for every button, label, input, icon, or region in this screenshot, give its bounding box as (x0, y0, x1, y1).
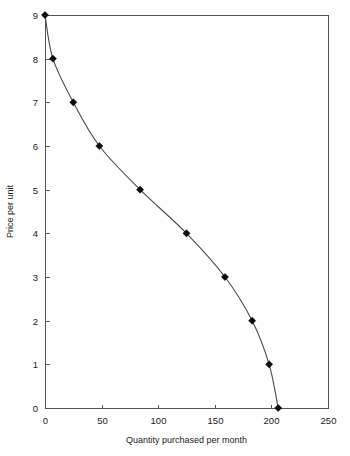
y-tick-label: 7 (33, 97, 38, 108)
y-tick-label: 3 (33, 272, 38, 283)
x-tick-label: 0 (43, 415, 48, 426)
y-tick-label: 1 (33, 359, 38, 370)
y-tick-label: 8 (33, 54, 38, 65)
y-tick-label: 5 (33, 185, 38, 196)
y-tick-label: 0 (33, 403, 38, 414)
y-tick-label: 9 (33, 10, 38, 21)
x-tick-label: 250 (321, 415, 337, 426)
chart-background (0, 0, 350, 456)
chart-figure: 050100150200250 0123456789 Quantity purc… (0, 0, 350, 456)
x-tick-label: 150 (208, 415, 224, 426)
x-tick-label: 50 (97, 415, 108, 426)
y-tick-label: 2 (33, 316, 38, 327)
y-tick-label: 4 (33, 228, 38, 239)
y-tick-label: 6 (33, 141, 38, 152)
y-axis-title: Price per unit (5, 184, 15, 238)
x-tick-label: 100 (151, 415, 167, 426)
x-tick-label: 200 (264, 415, 280, 426)
x-axis-title: Quantity purchased per month (126, 435, 247, 445)
demand-curve-chart: 050100150200250 0123456789 Quantity purc… (0, 0, 350, 456)
